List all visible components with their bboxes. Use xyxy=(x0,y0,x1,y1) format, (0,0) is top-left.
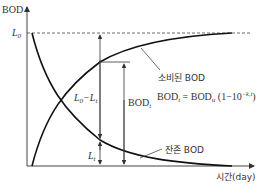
x-axis-label: 시간(day) xyxy=(216,172,256,183)
consumed-bod-label: 소비된 BOD xyxy=(158,73,205,84)
remaining-bod-label: 잔존 BOD xyxy=(165,145,204,156)
l0-label: L0 xyxy=(12,27,21,42)
consumed-leader xyxy=(141,48,160,70)
y-axis-label: BOD xyxy=(2,4,23,15)
lt-label: Lt xyxy=(88,150,96,165)
remaining-leader xyxy=(140,149,162,158)
bodt-label: BODt xyxy=(128,97,151,112)
consumed-bod-formula: BODt = BODu (1−10−k₁t) xyxy=(157,89,256,106)
l0-minus-lt-label: L0−Lt xyxy=(74,92,97,107)
